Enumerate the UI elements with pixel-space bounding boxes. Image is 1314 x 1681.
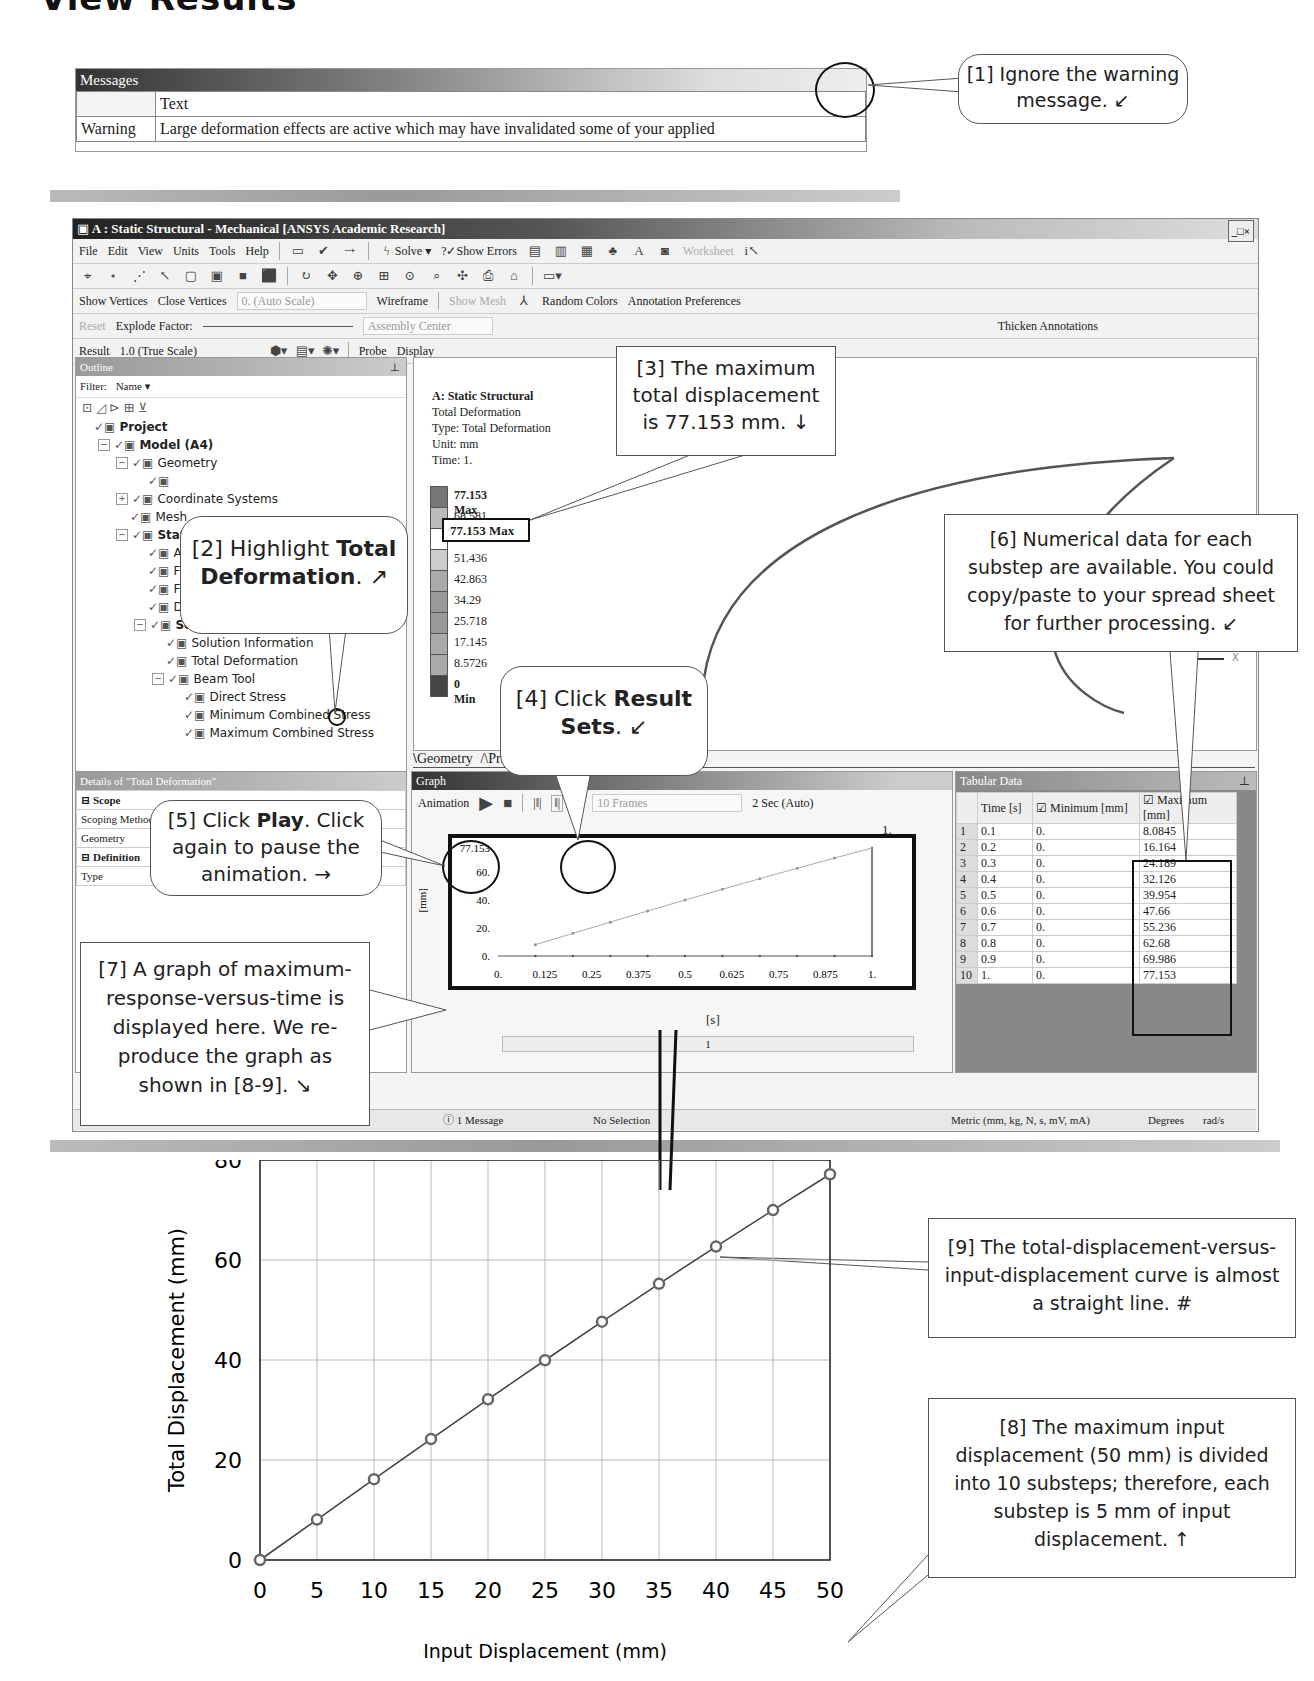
- status-units[interactable]: Metric (mm, kg, N, s, mV, mA): [951, 1110, 1090, 1130]
- stop-button[interactable]: ■: [503, 795, 512, 812]
- body-select-icon[interactable]: ▣: [209, 268, 225, 284]
- info-cursor-icon[interactable]: i↖: [744, 243, 760, 259]
- column-header[interactable]: ☑ Maximum [mm]: [1140, 793, 1237, 824]
- window-layout-icon[interactable]: ▭▾: [543, 268, 559, 284]
- menu-view[interactable]: View: [138, 244, 163, 259]
- face-select-icon[interactable]: ▢: [183, 268, 199, 284]
- menu-tools[interactable]: Tools: [209, 244, 236, 259]
- play-button[interactable]: ▶: [479, 792, 493, 814]
- iso-icon[interactable]: ✣: [454, 268, 470, 284]
- tree-item[interactable]: ✓▣Solution Information: [80, 634, 406, 652]
- wireframe-button[interactable]: Wireframe: [377, 294, 428, 309]
- menu-help[interactable]: Help: [245, 244, 268, 259]
- select-icon[interactable]: ⌖: [79, 268, 95, 284]
- tree-item[interactable]: ✓▣Minimum Combined Stress: [80, 706, 406, 724]
- show-mesh-button[interactable]: Show Mesh: [449, 294, 506, 309]
- cube-icon[interactable]: ⬛: [261, 268, 277, 284]
- zoom-box-icon[interactable]: ⊞: [376, 268, 392, 284]
- thicken-annotations-button[interactable]: Thicken Annotations: [998, 319, 1098, 334]
- reset-button[interactable]: Reset: [79, 319, 106, 334]
- column-header[interactable]: ☑ Minimum [mm]: [1033, 793, 1140, 824]
- tree-item[interactable]: +✓▣Coordinate Systems: [80, 490, 406, 508]
- close-vertices-button[interactable]: Close Vertices: [158, 294, 227, 309]
- assembly-center-dropdown[interactable]: Assembly Center: [363, 317, 493, 335]
- collapse-toggle-icon[interactable]: −: [116, 529, 128, 541]
- collapse-toggle-icon[interactable]: −: [134, 619, 146, 631]
- lightbulb-icon[interactable]: ♀: [573, 796, 582, 811]
- pointer-icon[interactable]: ↖: [157, 268, 173, 284]
- edge-icon[interactable]: ⋰: [131, 268, 147, 284]
- column-header[interactable]: Time [s]: [978, 793, 1033, 824]
- tree-item[interactable]: −✓▣Beam Tool: [80, 670, 406, 688]
- plus-icon[interactable]: ⊞: [124, 400, 135, 415]
- table-row[interactable]: 20.20.16.164: [957, 840, 1237, 856]
- zoom-icon[interactable]: ⊕: [350, 268, 366, 284]
- column-header[interactable]: [957, 793, 978, 824]
- tree-item[interactable]: ✓▣Project: [80, 418, 406, 436]
- edge-toolbar: Show Vertices Close Vertices 0. (Auto Sc…: [73, 289, 1258, 314]
- solve-button[interactable]: ϟSolve ▾: [379, 243, 431, 259]
- check-icon[interactable]: ✔: [316, 243, 332, 259]
- link-icon[interactable]: ⊻: [138, 400, 148, 415]
- messages-column-text: Text: [156, 92, 866, 117]
- tree-item[interactable]: −✓▣Geometry: [80, 454, 406, 472]
- duration-dropdown[interactable]: 2 Sec (Auto): [752, 796, 813, 811]
- connect-icon[interactable]: ⇢: [342, 243, 358, 259]
- menu-file[interactable]: File: [79, 244, 98, 259]
- collapse-toggle-icon[interactable]: −: [152, 673, 164, 685]
- vertex-icon[interactable]: ⋆: [105, 268, 121, 284]
- tree-item[interactable]: ✓▣Total Deformation: [80, 652, 406, 670]
- annotation-preferences-button[interactable]: Annotation Preferences: [628, 294, 741, 309]
- tree-item[interactable]: ✓▣Direct Stress: [80, 688, 406, 706]
- tree-icon[interactable]: ⊳: [109, 400, 120, 415]
- pan-icon[interactable]: ✥: [324, 268, 340, 284]
- explode-slider[interactable]: [203, 326, 353, 327]
- distributed-result-sets-button[interactable]: |‖|: [533, 796, 541, 811]
- message-row[interactable]: WarningLarge deformation effects are act…: [77, 117, 866, 142]
- status-messages[interactable]: ⓘ 1 Message: [443, 1110, 504, 1130]
- tree-item[interactable]: −✓▣Model (A4): [80, 436, 406, 454]
- status-rot-unit[interactable]: rad/s: [1203, 1110, 1224, 1130]
- show-vertices-button[interactable]: Show Vertices: [79, 294, 148, 309]
- image-icon[interactable]: ▦: [579, 243, 595, 259]
- scale-dropdown[interactable]: 0. (Auto Scale): [237, 292, 367, 310]
- collapse-icon[interactable]: ◿: [96, 400, 106, 415]
- triad-x-label: X: [1232, 652, 1239, 663]
- frames-dropdown[interactable]: 10 Frames: [592, 794, 742, 812]
- tab-geometry[interactable]: \Geometry: [413, 751, 475, 766]
- table-row[interactable]: 10.10.8.0845: [957, 824, 1237, 840]
- worksheet-button[interactable]: Worksheet: [683, 244, 734, 259]
- body-icon[interactable]: ■: [235, 268, 251, 284]
- window-controls[interactable]: _□×: [1228, 220, 1254, 242]
- capture-icon[interactable]: ◙: [657, 243, 673, 259]
- tag-icon[interactable]: ⌂: [506, 268, 522, 284]
- result-set-slider[interactable]: 1: [502, 1036, 914, 1052]
- collapse-toggle-icon[interactable]: −: [98, 439, 110, 451]
- menu-edit[interactable]: Edit: [108, 244, 128, 259]
- time-history-chart[interactable]: 77.15360.40.20.0.0.0.1250.250.3750.50.62…: [448, 834, 916, 990]
- rotate-icon[interactable]: ↻: [298, 268, 314, 284]
- chart-icon[interactable]: ▥: [553, 243, 569, 259]
- command-icon[interactable]: ▭: [290, 243, 306, 259]
- pin-icon[interactable]: ⊥: [1239, 772, 1250, 790]
- triad-icon[interactable]: ⅄: [516, 293, 532, 309]
- tree-item[interactable]: ✓▣: [80, 472, 406, 490]
- magnifier-icon[interactable]: ⌕: [428, 268, 444, 284]
- text-icon[interactable]: A: [631, 243, 647, 259]
- result-sets-button[interactable]: ‖|: [551, 795, 563, 812]
- menu-units[interactable]: Units: [173, 244, 199, 259]
- show-errors-button[interactable]: ?✓Show Errors: [441, 244, 517, 259]
- pin-icon[interactable]: ⊥: [390, 358, 400, 376]
- result-sets-highlight-circle: [560, 840, 616, 894]
- zoom-fit-icon[interactable]: ⊙: [402, 268, 418, 284]
- expand-toggle-icon[interactable]: +: [116, 493, 128, 505]
- expand-icon[interactable]: ⊡: [82, 400, 93, 415]
- print-icon[interactable]: ⎙: [480, 268, 496, 284]
- new-section-icon[interactable]: ▤: [527, 243, 543, 259]
- random-colors-button[interactable]: Random Colors: [542, 294, 618, 309]
- tree-item[interactable]: ✓▣Maximum Combined Stress: [80, 724, 406, 742]
- status-angle-unit[interactable]: Degrees: [1148, 1110, 1184, 1130]
- comment-icon[interactable]: ♣: [605, 243, 621, 259]
- collapse-toggle-icon[interactable]: −: [116, 457, 128, 469]
- filter-dropdown[interactable]: Name: [116, 380, 142, 392]
